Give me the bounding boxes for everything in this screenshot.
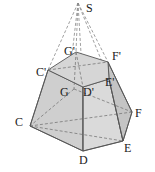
label-S: S [86, 1, 93, 15]
label-G: G [60, 85, 69, 99]
label-D: D [79, 153, 88, 167]
label-G-prime: G' [64, 44, 75, 58]
label-F-prime: F' [112, 49, 121, 63]
label-D-prime: D' [83, 85, 94, 99]
label-C: C [15, 115, 23, 129]
label-C-prime: C' [36, 65, 46, 79]
label-F: F [135, 106, 142, 120]
label-E: E [124, 141, 131, 155]
frustum-diagram: S G' F' C' E' G D' F C E D [0, 0, 155, 172]
label-E-prime: E' [105, 75, 115, 89]
